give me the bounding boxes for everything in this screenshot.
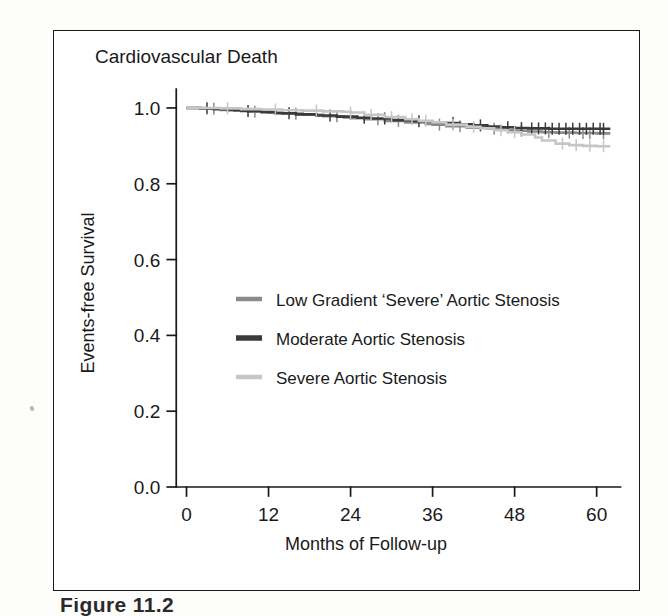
- survival-curve-2: [187, 108, 611, 146]
- x-tick-label: 48: [504, 504, 525, 525]
- x-tick-label: 0: [181, 504, 192, 525]
- y-tick-label: 1.0: [134, 98, 160, 119]
- y-tick-label: 0.6: [134, 250, 160, 271]
- y-tick-label: 0.4: [134, 325, 161, 346]
- x-tick-label: 36: [422, 504, 443, 525]
- x-axis-title: Months of Follow-up: [285, 534, 447, 554]
- x-tick-label: 24: [340, 504, 362, 525]
- figure-root: Cardiovascular Death 0.00.20.40.60.81.00…: [0, 0, 668, 616]
- figure-frame: Cardiovascular Death 0.00.20.40.60.81.00…: [53, 30, 640, 591]
- figure-caption: Figure 11.2: [60, 598, 360, 616]
- y-tick-label: 0.0: [134, 477, 160, 498]
- legend-group: Low Gradient ‘Severe’ Aortic StenosisMod…: [236, 291, 560, 388]
- figure-caption-text: Figure 11.2: [60, 598, 174, 616]
- scan-artifact-speck: [29, 405, 35, 411]
- legend-label-1: Moderate Aortic Stenosis: [276, 330, 465, 349]
- y-tick-label: 0.8: [134, 174, 160, 195]
- y-tick-label: 0.2: [134, 401, 160, 422]
- legend-label-2: Severe Aortic Stenosis: [276, 369, 447, 388]
- plot-title: Cardiovascular Death: [95, 46, 278, 67]
- y-axis-title: Events-free Survival: [78, 212, 98, 373]
- x-tick-label: 12: [258, 504, 279, 525]
- series-group: [187, 102, 611, 152]
- legend-label-0: Low Gradient ‘Severe’ Aortic Stenosis: [276, 291, 560, 310]
- survival-plot: Cardiovascular Death 0.00.20.40.60.81.00…: [54, 31, 638, 589]
- x-tick-label: 60: [586, 504, 607, 525]
